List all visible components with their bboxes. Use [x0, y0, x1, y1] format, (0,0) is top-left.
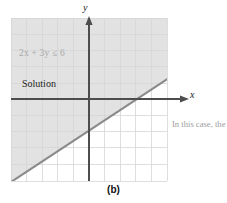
edge-included-note: In this case, the edge is included. [172, 119, 227, 130]
figure-caption: (b) [0, 184, 227, 195]
x-axis-label: x [190, 89, 194, 100]
inequality-label: 2x + 3y ≤ 6 [19, 48, 65, 58]
solution-region-label: Solution [22, 78, 56, 89]
y-axis-label: y [83, 2, 87, 13]
coordinate-plane [0, 0, 227, 203]
x-axis-arrow [180, 95, 189, 102]
inequality-graph-figure: y x 2x + 3y ≤ 6 Solution In this case, t… [0, 0, 227, 203]
